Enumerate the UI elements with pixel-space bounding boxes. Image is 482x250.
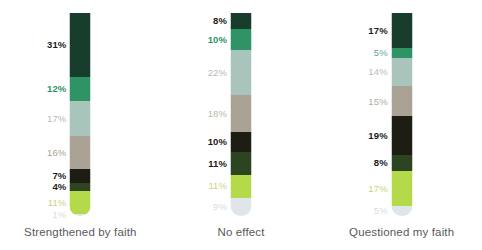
bar-segment (391, 86, 412, 116)
bar-segment (231, 198, 252, 216)
bar-segment (231, 132, 252, 153)
stacked-bar (391, 13, 412, 216)
bar-segment (231, 95, 252, 132)
bar-segment (70, 169, 91, 183)
segment-percentage-label: 4% (2, 183, 66, 191)
segment-percentage-label: 11% (163, 175, 227, 198)
segment-percentage-label: 11% (163, 152, 227, 175)
chart-columns: 31%12%17%16%7%4%11%1% Strengthened by fa… (0, 0, 482, 250)
segment-percentage-label: 1% (2, 214, 66, 216)
bar-segment (391, 116, 412, 155)
stacked-bar-segments (70, 13, 91, 216)
chart-column-questioned-my-faith: 17%5%14%15%19%8%17%5% Questioned my fait… (321, 0, 482, 250)
segment-percentage-label: 16% (2, 136, 66, 169)
stacked-bar (70, 13, 91, 216)
bar-segment (70, 183, 91, 191)
bar-segment (231, 29, 252, 50)
stacked-bar-segments (391, 13, 412, 216)
segment-percentage-label: 17% (324, 171, 388, 206)
segment-percentage-label: 18% (163, 95, 227, 132)
bar-segment (70, 101, 91, 136)
bar-segment (70, 214, 91, 216)
column-caption: No effect (161, 226, 322, 238)
bar-segment (391, 206, 412, 216)
segment-percentage-label: 5% (324, 48, 388, 58)
segment-label-list: 17%5%14%15%19%8%17%5% (324, 13, 388, 216)
segment-percentage-label: 17% (2, 101, 66, 136)
bar-segment (231, 13, 252, 29)
segment-percentage-label: 8% (324, 155, 388, 171)
segment-percentage-label: 10% (163, 29, 227, 50)
segment-percentage-label: 8% (163, 13, 227, 29)
segment-percentage-label: 15% (324, 86, 388, 116)
segment-label-list: 8%10%22%18%10%11%11%9% (163, 13, 227, 216)
bar-segment (391, 155, 412, 171)
segment-percentage-label: 14% (324, 58, 388, 86)
chart-column-no-effect: 8%10%22%18%10%11%11%9% No effect (161, 0, 322, 250)
chart-column-strengthened-by-faith: 31%12%17%16%7%4%11%1% Strengthened by fa… (0, 0, 161, 250)
column-caption: Strengthened by faith (0, 226, 161, 238)
column-caption: Questioned my faith (321, 226, 482, 238)
bar-segment (231, 152, 252, 175)
bar-segment (231, 175, 252, 198)
bar-segment (391, 48, 412, 58)
segment-percentage-label: 22% (163, 50, 227, 95)
segment-percentage-label: 19% (324, 116, 388, 155)
bar-segment (391, 13, 412, 48)
segment-percentage-label: 5% (324, 206, 388, 216)
segment-percentage-label: 17% (324, 13, 388, 48)
bar-segment (70, 13, 91, 77)
bar-segment (70, 136, 91, 169)
stacked-bar-segments (231, 13, 252, 216)
stacked-bar-chart: 31%12%17%16%7%4%11%1% Strengthened by fa… (0, 0, 482, 250)
bar-segment (391, 58, 412, 86)
bar-segment (70, 191, 91, 214)
segment-percentage-label: 9% (163, 198, 227, 216)
bar-segment (391, 171, 412, 206)
segment-percentage-label: 10% (163, 132, 227, 153)
segment-percentage-label: 31% (2, 13, 66, 77)
segment-label-list: 31%12%17%16%7%4%11%1% (2, 13, 66, 216)
stacked-bar (231, 13, 252, 216)
bar-segment (231, 50, 252, 95)
segment-percentage-label: 12% (2, 77, 66, 102)
bar-segment (70, 77, 91, 102)
